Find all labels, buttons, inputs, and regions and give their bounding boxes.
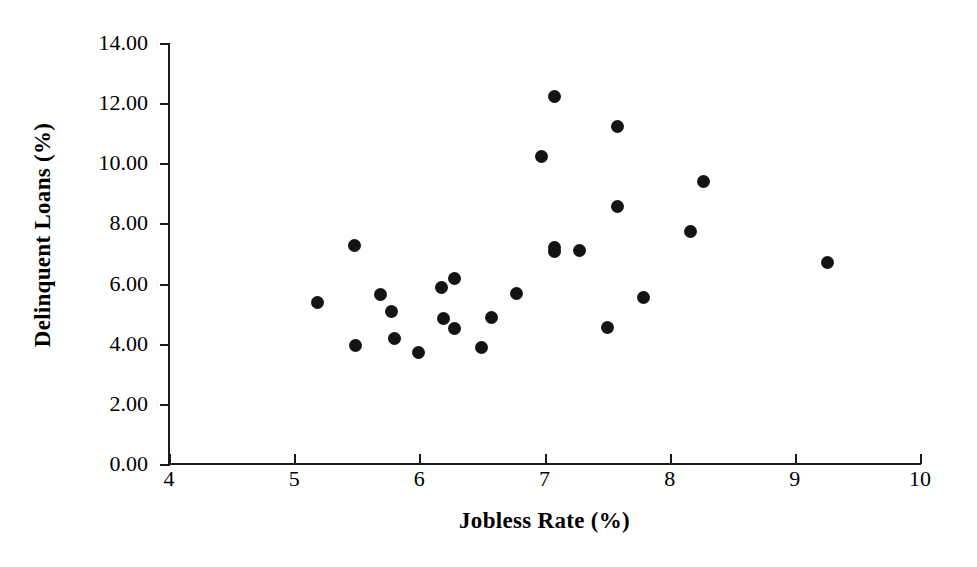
y-tick-mark: 10.00 [160, 163, 170, 165]
data-point [611, 120, 624, 133]
y-axis-title: Delinquent Loans (%) [30, 85, 56, 385]
y-tick-mark: 2.00 [160, 404, 170, 406]
y-tick-label: 8.00 [110, 212, 149, 234]
y-tick-mark: 14.00 [160, 43, 170, 45]
y-tick-mark: 12.00 [160, 103, 170, 105]
y-tick-mark: 6.00 [160, 284, 170, 286]
data-point [475, 341, 488, 354]
data-point [821, 256, 834, 269]
data-point [601, 321, 614, 334]
x-tick-label: 4 [164, 468, 175, 490]
x-tick-label: 8 [664, 468, 675, 490]
data-point [374, 288, 387, 301]
data-point [684, 225, 697, 238]
x-tick-mark: 8 [670, 454, 672, 464]
data-point [348, 239, 361, 252]
data-point [637, 291, 650, 304]
x-tick-mark: 4 [169, 454, 171, 464]
y-tick-label: 6.00 [110, 273, 149, 295]
data-point [385, 305, 398, 318]
x-tick-label: 7 [539, 468, 550, 490]
y-tick-label: 10.00 [99, 152, 149, 174]
data-point [535, 150, 548, 163]
data-point [697, 175, 710, 188]
data-point [510, 287, 523, 300]
y-tick-label: 14.00 [99, 32, 149, 54]
data-point [573, 244, 586, 257]
scatter-plot-figure: 0.002.004.006.008.0010.0012.0014.00 4567… [0, 0, 977, 567]
x-tick-mark: 6 [419, 454, 421, 464]
y-tick-label: 0.00 [110, 453, 149, 475]
y-tick-mark: 8.00 [160, 223, 170, 225]
y-tick-label: 2.00 [110, 393, 149, 415]
y-tick-label: 4.00 [110, 333, 149, 355]
data-point [435, 281, 448, 294]
data-point [448, 322, 461, 335]
data-point [448, 272, 461, 285]
data-point [548, 241, 561, 254]
data-point [311, 296, 324, 309]
y-tick-mark: 4.00 [160, 344, 170, 346]
data-point [611, 200, 624, 213]
y-tick-label: 12.00 [99, 92, 149, 114]
plot-area: 0.002.004.006.008.0010.0012.0014.00 4567… [169, 43, 920, 464]
x-tick-mark: 5 [294, 454, 296, 464]
x-tick-label: 5 [289, 468, 300, 490]
data-point [548, 90, 561, 103]
data-point [349, 339, 362, 352]
x-tick-mark: 10 [920, 454, 922, 464]
x-axis-title: Jobless Rate (%) [169, 508, 920, 534]
x-tick-mark: 9 [795, 454, 797, 464]
x-tick-label: 9 [789, 468, 800, 490]
data-point [388, 332, 401, 345]
data-point [412, 346, 425, 359]
x-tick-label: 10 [909, 468, 931, 490]
x-tick-mark: 7 [545, 454, 547, 464]
data-point [437, 312, 450, 325]
x-tick-label: 6 [414, 468, 425, 490]
data-point [485, 311, 498, 324]
